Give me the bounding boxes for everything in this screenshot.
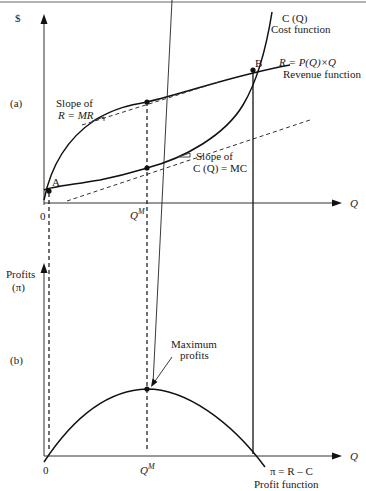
cost-tangent-line [67,120,310,201]
panel-a-y-axis-arrow-icon [41,14,48,24]
panel-a-origin-label: 0 [40,210,46,222]
cost-slope-note-line1: Slope of [196,150,233,162]
panel-a-label: (a) [10,97,23,110]
cost-slope-note-line2: C (Q) = MC [193,162,247,175]
point-cost-at-qm [144,165,149,170]
cost-curve-caption: Cost function [271,23,331,35]
max-profit-pointer [153,0,172,384]
panel-a: $ (a) Q 0 QM A B C (Q) Cost function R =… [10,12,361,454]
panel-a-qm-label: QM [130,207,146,221]
revenue-curve-caption: Revenue function [283,68,361,80]
panel-b-qm-label: QM [140,462,156,476]
point-a [46,188,51,193]
panel-b-x-label: Q [350,450,358,462]
point-b-label: B [255,57,262,69]
point-revenue-at-qm [144,99,149,104]
profit-maximization-diagram: $ (a) Q 0 QM A B C (Q) Cost function R =… [0,0,366,491]
panel-a-x-axis-arrow-icon [332,200,342,207]
panel-b-origin-label: 0 [43,464,49,476]
panel-b-y-label-line1: Profits [6,268,35,280]
revenue-slope-note-line1: Slope of [56,97,93,109]
point-max-profit [144,386,149,391]
panel-b-x-axis-arrow-icon [332,453,342,460]
panel-b-y-label-line2: (π) [12,281,25,294]
panel-a-x-label: Q [350,197,358,209]
point-a-label: A [52,176,60,188]
max-profit-note-line2: profits [180,349,209,361]
revenue-slope-note-line2: R = MR [57,109,94,121]
max-profit-pointer-line [153,357,172,384]
profit-curve [44,389,265,467]
panel-b-y-axis-arrow-icon [41,263,48,273]
panel-a-y-label: $ [15,12,21,24]
profit-curve-caption: Profit function [254,478,319,490]
max-profit-arrow-icon [151,379,158,388]
panel-b-label: (b) [10,354,23,367]
profit-curve-name: π = R – C [270,465,313,477]
